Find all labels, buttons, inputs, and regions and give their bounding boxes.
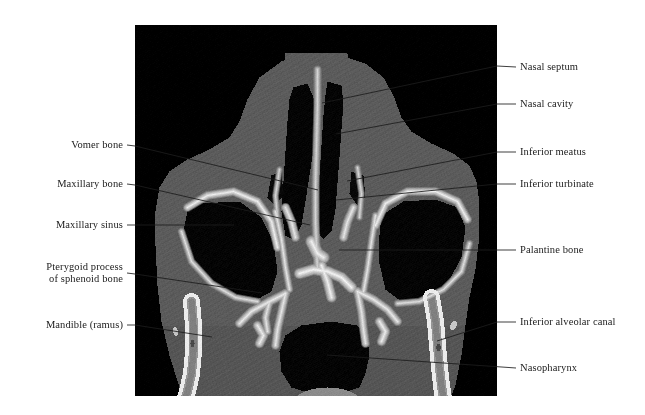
ct-scan-canvas [135,25,497,396]
leader-vomer-bone [127,145,135,146]
label-palantine-bone: Palantine bone [520,244,584,257]
label-maxillary-sinus: Maxillary sinus [0,219,123,232]
label-text: Nasal septum [520,61,578,72]
figure-page: Nasal septumNasal cavityInferior meatusI… [0,0,645,415]
label-text: Inferior turbinate [520,178,594,189]
label-text: Nasal cavity [520,98,573,109]
label-text: Vomer bone [71,139,123,150]
label-nasal-septum: Nasal septum [520,61,578,74]
label-inferior-turbinate: Inferior turbinate [520,178,594,191]
leader-pterygoid-process-of-sphenoid-bone [127,273,135,274]
label-text: Mandible (ramus) [46,319,123,330]
label-nasal-cavity: Nasal cavity [520,98,573,111]
label-text: Nasopharynx [520,362,577,373]
label-text: Inferior meatus [520,146,586,157]
leader-maxillary-bone [127,184,135,185]
label-vomer-bone: Vomer bone [0,139,123,152]
label-text: Maxillary bone [57,178,123,189]
label-pterygoid-process-of-sphenoid-bone: Pterygoid processof sphenoid bone [0,261,123,286]
ct-scan-image [135,25,497,396]
label-text-line2: of sphenoid bone [0,273,123,286]
label-inferior-meatus: Inferior meatus [520,146,586,159]
label-text: Palantine bone [520,244,584,255]
label-nasopharynx: Nasopharynx [520,362,577,375]
label-inferior-alveolar-canal: Inferior alveolar canal [520,316,616,329]
label-text: Maxillary sinus [56,219,123,230]
leader-nasal-septum [497,66,516,67]
label-maxillary-bone: Maxillary bone [0,178,123,191]
label-mandible-ramus: Mandible (ramus) [0,319,123,332]
label-text: Inferior alveolar canal [520,316,616,327]
label-text: Pterygoid process [46,261,123,272]
